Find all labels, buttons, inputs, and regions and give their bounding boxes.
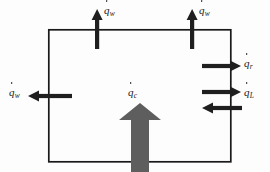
overdot bbox=[246, 53, 248, 55]
label-wall-flux-top-left: qw bbox=[104, 5, 115, 18]
overdot bbox=[246, 82, 248, 84]
symbol-q-dot: q bbox=[9, 87, 15, 98]
overdot bbox=[11, 82, 13, 84]
thermal-energy-balance-figure: qw qw qw qr qL qc bbox=[0, 0, 270, 172]
subscript: w bbox=[15, 91, 20, 100]
subscript: L bbox=[250, 91, 254, 100]
latent-flux-arrow-incoming bbox=[202, 103, 242, 114]
radiation-flux-arrow-right bbox=[202, 61, 241, 72]
symbol-q-dot: q bbox=[128, 87, 134, 98]
subscript: c bbox=[134, 91, 137, 100]
label-convective-flux: qc bbox=[128, 87, 137, 100]
label-latent-flux: qL bbox=[244, 87, 254, 100]
latent-flux-arrow-outgoing bbox=[202, 87, 241, 98]
subscript: r bbox=[250, 62, 253, 71]
label-wall-flux-top-right: qw bbox=[199, 5, 210, 18]
symbol-q-dot: q bbox=[104, 5, 110, 16]
label-wall-flux-left: qw bbox=[9, 87, 20, 100]
figure-canvas bbox=[0, 0, 270, 172]
subscript: w bbox=[205, 9, 210, 18]
overdot bbox=[106, 0, 108, 2]
overdot bbox=[201, 0, 203, 2]
symbol-q-dot: q bbox=[244, 87, 250, 98]
subscript: w bbox=[110, 9, 115, 18]
overdot bbox=[130, 82, 132, 84]
wall-flux-arrow-left bbox=[28, 91, 72, 102]
symbol-q-dot: q bbox=[199, 5, 205, 16]
label-radiation-flux: qr bbox=[244, 58, 253, 71]
symbol-q-dot: q bbox=[244, 58, 250, 69]
